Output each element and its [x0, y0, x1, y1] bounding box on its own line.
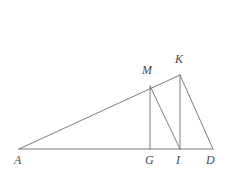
- geometry-canvas: [0, 0, 231, 180]
- segment-diagonal-MI: [150, 86, 180, 149]
- vertex-label-d: D: [206, 154, 215, 166]
- vertex-label-g: G: [145, 154, 154, 166]
- segment-hypotenuse-AK: [19, 75, 180, 149]
- segment-diagonal-KD: [180, 75, 213, 149]
- vertex-label-a: A: [14, 154, 21, 166]
- vertex-label-k: K: [175, 53, 183, 65]
- geometry-figure: AGIDMK: [0, 0, 231, 180]
- segment-group: [19, 75, 213, 149]
- vertex-label-m: M: [142, 64, 152, 76]
- vertex-label-i: I: [176, 154, 180, 166]
